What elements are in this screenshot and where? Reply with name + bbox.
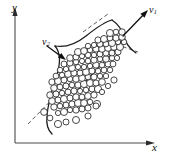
particle-circle [113,35,119,41]
particle-circle [73,94,79,100]
particle-circle [95,37,101,43]
particle-circle [73,76,80,83]
particle-circle [57,103,63,109]
particle-cloud [41,29,127,128]
particle-circle [85,93,92,100]
vector-v1-label-subscript: 1 [153,8,156,15]
particle-circle [63,83,69,89]
x-axis-label-text: x [152,141,157,153]
particle-circle [93,103,99,109]
particle-circle [79,58,84,63]
particle-circle [61,61,67,67]
particle-circle [93,80,99,86]
x-axis-label: x [152,142,157,153]
particle-circle [86,79,93,86]
particle-circle [113,29,119,35]
particle-circle [51,85,58,92]
particle-circle [77,70,83,76]
vector-v2-label-subscript: 2 [46,40,49,47]
vector-v2-label: v2 [42,37,50,48]
particle-circle [57,67,63,73]
y-axis-label: y [12,2,17,13]
particle-circle [114,55,119,60]
particle-circle [71,88,77,94]
particle-circle [79,106,85,112]
particle-circle [59,90,64,95]
particle-circle [77,88,82,93]
particle-circle [47,92,54,99]
particle-circle [87,99,93,105]
particle-circle [99,62,105,68]
particle-circle [57,84,63,90]
particle-circle [47,115,53,121]
particle-circle [72,116,79,123]
particle-circle [73,107,79,113]
particle-circle [81,100,88,107]
particle-circle [54,120,61,127]
particle-circle [85,58,91,64]
particle-circle [83,87,89,93]
vector-v1 [123,10,148,36]
particle-circle [103,56,110,63]
particle-circle [106,29,113,36]
particle-circle [99,79,106,86]
particle-circle [91,52,96,57]
particle-circle [91,42,96,47]
particle-circle [69,82,75,88]
particle-circle [67,95,73,101]
particle-circle [103,73,108,78]
particle-circle [81,64,86,69]
particle-circle [55,110,60,115]
particle-circle [85,43,91,49]
particle-jet-figure: y x v1 v2 [0,0,169,161]
particle-circle [79,94,85,100]
particle-circle [60,108,67,115]
figure-canvas [0,0,169,161]
particle-circle [95,68,101,74]
particle-circle [63,119,69,125]
particle-circle [91,74,97,80]
particle-circle [53,73,59,79]
particle-circle [67,55,74,62]
particle-circle [91,92,97,98]
particle-circle [67,107,72,112]
particle-circle [110,61,116,67]
particle-circle [41,109,48,116]
y-axis-label-text: y [12,1,17,13]
particle-circle [105,83,110,88]
particle-circle [60,95,67,102]
particle-circle [99,89,104,94]
particle-circle [55,97,61,103]
particle-circle [53,91,59,97]
vector-v1-label: v1 [149,5,157,16]
particle-circle [101,36,108,43]
particle-circle [85,113,91,119]
vector-v1-shaft [123,16,142,36]
particle-circle [65,89,71,95]
particle-circle [111,77,117,83]
particle-circle [107,67,113,73]
